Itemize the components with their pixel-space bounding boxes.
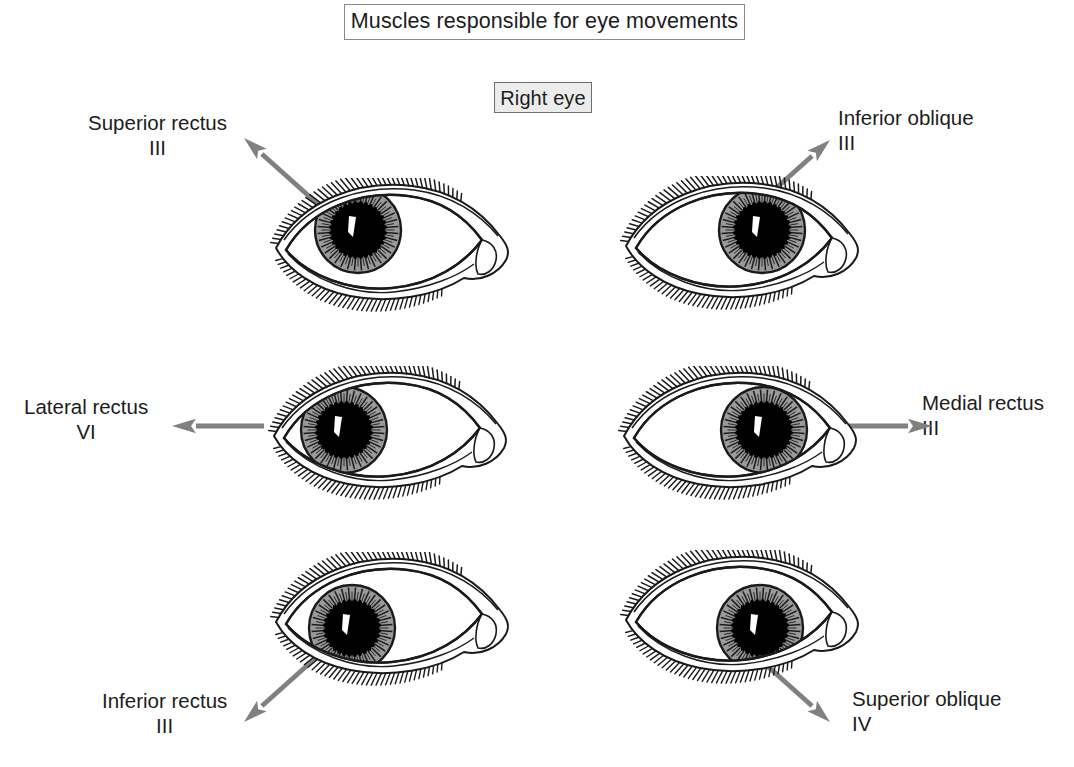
muscle-name: Inferior rectus [102, 689, 227, 712]
cranial-nerve: III [922, 415, 1044, 440]
cranial-nerve: III [102, 713, 227, 738]
label-superior-rectus: Superior rectus III [88, 110, 227, 160]
label-medial-rectus: Medial rectus III [922, 390, 1044, 440]
diagram-canvas: Muscles responsible for eye movements Ri… [0, 0, 1074, 767]
page-title: Muscles responsible for eye movements [344, 4, 745, 40]
label-lateral-rectus: Lateral rectus VI [24, 394, 148, 444]
muscle-name: Medial rectus [922, 391, 1044, 414]
eye-illustration [606, 366, 881, 501]
eye-figure-medial-rectus [606, 366, 881, 501]
cranial-nerve: VI [24, 419, 148, 444]
cranial-nerve: IV [852, 711, 1001, 736]
eye-figure-lateral-rectus [256, 366, 531, 501]
eye-illustration [258, 552, 533, 687]
arrow-left-lateral-rectus [166, 406, 266, 446]
label-inferior-oblique: Inferior oblique III [838, 105, 974, 155]
eye-illustration [256, 366, 531, 501]
eye-figure-inferior-oblique [608, 176, 883, 311]
cranial-nerve: III [88, 135, 227, 160]
muscle-name: Inferior oblique [838, 106, 974, 129]
eye-figure-inferior-rectus [258, 552, 533, 687]
muscle-name: Superior oblique [852, 687, 1001, 710]
label-inferior-rectus: Inferior rectus III [102, 688, 227, 738]
eye-illustration [258, 178, 533, 313]
label-superior-oblique: Superior oblique IV [852, 686, 1001, 736]
eye-illustration [608, 176, 883, 311]
eye-illustration [608, 550, 883, 685]
eye-side-label: Right eye [494, 82, 592, 113]
eye-figure-superior-rectus [258, 178, 533, 313]
muscle-name: Superior rectus [88, 111, 227, 134]
eye-figure-superior-oblique [608, 550, 883, 685]
cranial-nerve: III [838, 130, 974, 155]
muscle-name: Lateral rectus [24, 395, 148, 418]
